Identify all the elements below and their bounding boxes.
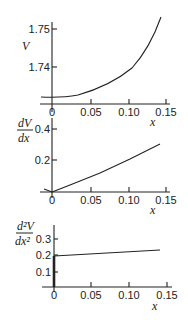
x-tick-label: 0.15 xyxy=(156,289,177,301)
chart-v: 1.75 1.74 0 0.05 0.10 0.15 V x xyxy=(22,17,177,129)
x-tick-label: 0 xyxy=(49,194,55,206)
x-axis-label: x xyxy=(149,203,156,217)
v-curve xyxy=(41,17,161,97)
x-tick-label: 0.15 xyxy=(155,106,176,118)
x-tick-label: 0.05 xyxy=(80,194,101,206)
x-axis-label: x xyxy=(149,115,156,129)
x-tick-label: 0.10 xyxy=(118,194,139,206)
y-tick-label: 0.3 xyxy=(36,233,51,245)
x-tick-label: 0.15 xyxy=(155,194,176,206)
x-axis-label: x xyxy=(151,299,158,313)
x-tick-label: 0.10 xyxy=(118,289,139,301)
x-tick-label: 0 xyxy=(51,289,57,301)
y-tick-label: 0.1 xyxy=(36,266,51,278)
x-tick-label: 0.05 xyxy=(80,289,101,301)
chart-dvdx: 0.4 0.2 0 0.05 0.10 0.15 dV dx x xyxy=(17,116,177,217)
x-tick-label: 0.10 xyxy=(118,106,139,118)
y-tick-label: 0.2 xyxy=(36,249,51,261)
y-axis-label-num: dV xyxy=(18,116,33,130)
x-tick-label: 0 xyxy=(49,106,55,118)
y-tick-label: 0.2 xyxy=(35,154,50,166)
y-axis-label-den: dx² xyxy=(15,234,30,248)
y-tick-label: 1.75 xyxy=(29,23,50,35)
figure-stack: 1.75 1.74 0 0.05 0.10 0.15 V x 0.4 0.2 0… xyxy=(0,0,188,324)
y-axis-label: V xyxy=(22,39,31,53)
d2vdx2-curve xyxy=(54,250,160,256)
y-axis-label-num: d²V xyxy=(17,219,36,233)
y-axis-label-den: dx xyxy=(18,131,30,145)
y-tick-label: 0.4 xyxy=(35,123,50,135)
y-tick-label: 1.74 xyxy=(29,61,50,73)
chart-d2vdx2: 0.3 0.2 0.1 0 0.05 0.10 0.15 d²V dx² x xyxy=(15,219,178,313)
x-tick-label: 0.05 xyxy=(80,106,101,118)
dvdx-curve xyxy=(44,144,160,192)
